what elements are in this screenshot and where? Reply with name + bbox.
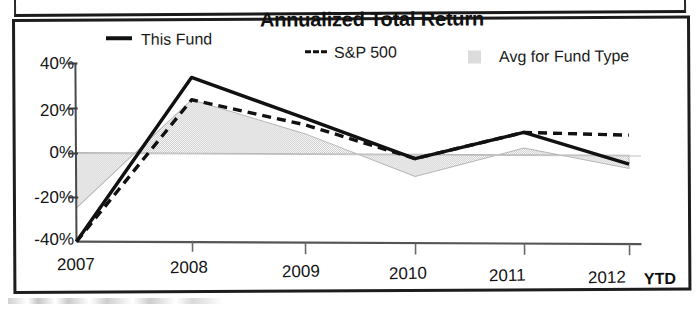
series-line-sp500 [76, 97, 630, 241]
x-axis-line [76, 238, 641, 247]
chart-svg [0, 0, 697, 309]
x-axis-ticks [192, 238, 629, 258]
chart-page: Annualized Total Return This Fund S&P 50… [0, 0, 697, 309]
plot-area [0, 0, 697, 309]
series-area-avg-fund-type [76, 97, 630, 208]
series-line-this-fund [75, 75, 629, 242]
